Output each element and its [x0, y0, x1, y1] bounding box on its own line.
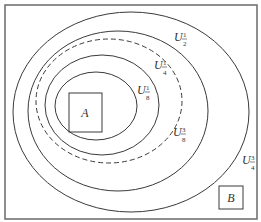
- svg-text:4: 4: [163, 69, 167, 77]
- set-u-one-eighth: [55, 72, 137, 140]
- svg-text:1: 1: [163, 59, 167, 67]
- nested-sets-diagram: A B U 1 2 U 1 4 U 1 8 U 3 8 U 3 4: [0, 0, 261, 222]
- box-b-label: B: [227, 191, 235, 205]
- label-u-one-half: U 1 2: [174, 30, 187, 48]
- svg-text:1: 1: [146, 84, 150, 92]
- label-u-one-quarter: U 1 4: [154, 58, 167, 77]
- svg-text:2: 2: [183, 40, 187, 48]
- label-u-three-eighths: U 3 8: [173, 125, 186, 144]
- label-u-three-quarters: U 3 4: [242, 153, 255, 172]
- svg-text:4: 4: [251, 164, 255, 172]
- svg-text:3: 3: [251, 154, 255, 162]
- svg-text:3: 3: [182, 126, 186, 134]
- svg-text:1: 1: [183, 31, 187, 39]
- svg-text:8: 8: [146, 94, 150, 102]
- svg-text:8: 8: [182, 136, 186, 144]
- label-u-one-eighth: U 1 8: [137, 83, 150, 102]
- box-a-label: A: [80, 106, 89, 120]
